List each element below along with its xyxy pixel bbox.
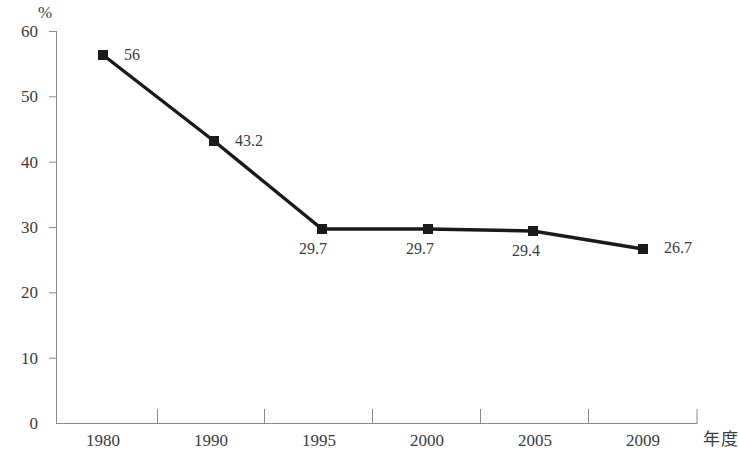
data-point-label-1995: 29.7 <box>299 241 327 257</box>
data-point-marker <box>638 244 648 254</box>
data-point-label-1980: 56 <box>124 47 140 63</box>
data-point-marker <box>423 224 433 234</box>
x-tick-label-1995: 1995 <box>284 432 354 449</box>
y-tick-label-60: 60 <box>4 23 38 40</box>
data-point-marker <box>209 136 219 146</box>
x-tick-label-2000: 2000 <box>392 432 462 449</box>
chart-plot-area <box>0 0 739 471</box>
y-tick-label-40: 40 <box>4 154 38 171</box>
series-line <box>103 55 643 249</box>
data-point-label-2005: 29.4 <box>512 243 540 259</box>
data-point-label-1990: 43.2 <box>235 133 263 149</box>
series-markers <box>98 50 648 254</box>
y-tick-label-0: 0 <box>4 415 38 432</box>
y-tick-label-30: 30 <box>4 219 38 236</box>
x-axis-unit-label: 年度 <box>703 431 739 448</box>
data-point-label-2009: 26.7 <box>664 240 692 256</box>
x-axis-ticks <box>158 409 698 423</box>
data-point-marker <box>528 226 538 236</box>
x-tick-label-1980: 1980 <box>68 432 138 449</box>
x-tick-label-1990: 1990 <box>176 432 246 449</box>
data-point-marker <box>98 50 108 60</box>
x-tick-label-2005: 2005 <box>500 432 570 449</box>
data-point-label-2000: 29.7 <box>406 241 434 257</box>
line-chart: % 年度 60 50 40 30 20 10 0 1980 1990 1995 … <box>0 0 739 471</box>
data-point-marker <box>317 224 327 234</box>
y-tick-label-50: 50 <box>4 88 38 105</box>
y-tick-label-10: 10 <box>4 350 38 367</box>
y-axis-unit-label: % <box>38 4 52 21</box>
x-tick-label-2009: 2009 <box>608 432 678 449</box>
y-tick-label-20: 20 <box>4 284 38 301</box>
y-axis-ticks <box>49 32 56 359</box>
